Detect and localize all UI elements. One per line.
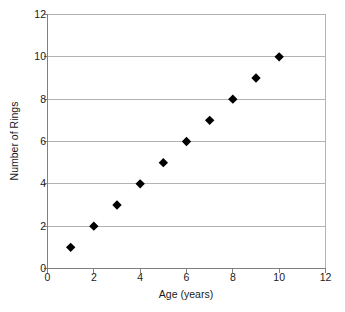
data-point-marker xyxy=(228,94,237,103)
cutoff-caption xyxy=(0,303,345,312)
data-point-marker xyxy=(135,179,144,188)
x-tick-label: 2 xyxy=(74,272,114,283)
x-tick-label: 0 xyxy=(28,272,68,283)
x-tick-label: 6 xyxy=(167,272,207,283)
data-point-marker xyxy=(66,243,75,252)
y-tick-label: 2 xyxy=(6,221,46,232)
y-tick-label: 6 xyxy=(6,136,46,147)
scatter-plot-figure: Number of Rings 024681012 024681012 Age … xyxy=(0,0,345,312)
x-tick-label: 10 xyxy=(259,272,299,283)
data-point-marker xyxy=(182,137,191,146)
data-point-marker xyxy=(89,221,98,230)
y-tick-label: 4 xyxy=(6,178,46,189)
plot-area xyxy=(0,0,345,312)
data-point-marker xyxy=(112,200,121,209)
data-markers xyxy=(66,52,284,252)
y-tick-label: 12 xyxy=(6,9,46,20)
data-point-marker xyxy=(205,116,214,125)
data-point-marker xyxy=(159,158,168,167)
x-axis-title: Age (years) xyxy=(47,288,325,300)
x-tick-label: 12 xyxy=(306,272,345,283)
x-tick-label: 4 xyxy=(120,272,160,283)
y-tick-label: 8 xyxy=(6,94,46,105)
data-point-marker xyxy=(251,73,260,82)
x-tick-label: 8 xyxy=(213,272,253,283)
data-point-marker xyxy=(274,52,283,61)
y-tick-label: 10 xyxy=(6,51,46,62)
